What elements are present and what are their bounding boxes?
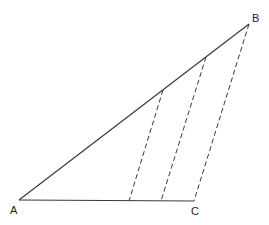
parallel-line-2-dashed [161, 57, 206, 201]
segment-ab [19, 24, 249, 200]
label-c: C [191, 205, 199, 217]
segment-bc-dashed [194, 24, 249, 201]
label-b: B [252, 12, 259, 24]
parallel-line-1-dashed [129, 90, 163, 201]
label-a: A [10, 204, 18, 216]
segment-ac [19, 200, 194, 201]
triangle-diagram: A B C [0, 0, 269, 225]
